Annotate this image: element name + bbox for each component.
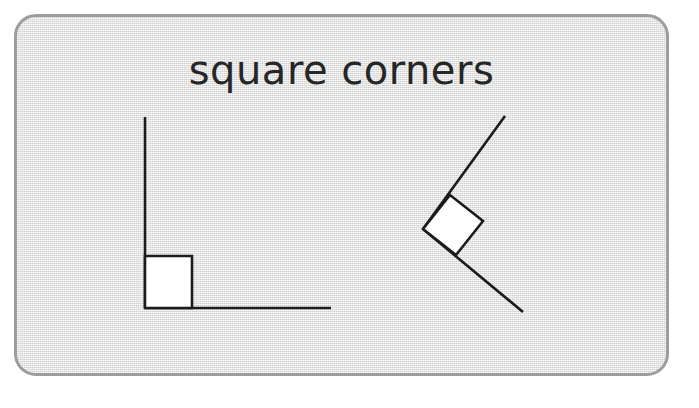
- figures-layer: [0, 0, 685, 394]
- geometry-drawing: [0, 0, 685, 394]
- page-root: square corners: [0, 0, 699, 408]
- right-angle-square-marker: [423, 195, 483, 255]
- right-angle-rotated: [423, 116, 523, 312]
- right-angle-upright: [145, 117, 331, 308]
- right-angle-square-marker: [145, 256, 192, 308]
